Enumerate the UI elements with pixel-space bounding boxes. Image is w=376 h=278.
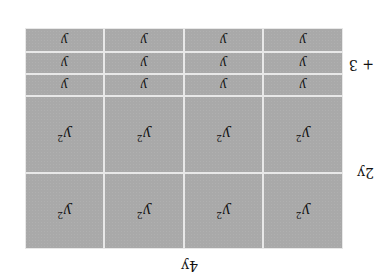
height-label-2y: 2y [357,165,374,181]
y-squared-tile: y2 [26,174,103,248]
tile-exponent: 2 [137,134,143,144]
y-tile: y [185,75,262,95]
y-squared-tile: y2 [26,97,103,172]
tile-exponent: 2 [296,210,302,220]
y-tile: y [264,29,342,51]
y-tile: y [26,75,103,95]
tile-exponent: 2 [216,210,222,220]
width-label: 4y [181,258,198,274]
tile-label: y [223,127,231,143]
tile-exponent: 2 [57,210,63,220]
tile-label: y [220,56,227,70]
tile-exponent: 2 [216,134,222,144]
tile-label: y [143,127,151,143]
y-tile: y [105,53,183,73]
tile-exponent: 2 [137,210,143,220]
tile-label: y [302,127,310,143]
tile-label: y [61,56,68,70]
diagram-stage: y2y2y2y2y2y2y2y2yyyyyyyyyyyy 4y 2y + 3 [0,0,376,278]
tile-label: y [61,33,68,47]
y-squared-tile: y2 [185,174,262,248]
y-tile: y [185,29,262,51]
y-squared-tile: y2 [264,97,342,172]
tile-label: y [302,203,310,219]
tile-label: y [143,203,151,219]
tile-label: y [61,78,68,92]
y-tile: y [264,53,342,73]
tile-exponent: 2 [296,134,302,144]
tile-label: y [64,127,72,143]
tile-exponent: 2 [57,134,63,144]
y-squared-tile: y2 [105,97,183,172]
tile-label: y [141,78,148,92]
tile-label: y [300,33,307,47]
tile-label: y [220,78,227,92]
tile-label: y [300,56,307,70]
y-tile: y [26,53,103,73]
tile-label: y [300,78,307,92]
y-tile: y [26,29,103,51]
y-tile: y [185,53,262,73]
tile-label: y [141,56,148,70]
y-tile: y [105,75,183,95]
y-squared-tile: y2 [105,174,183,248]
tile-label: y [64,203,72,219]
y-squared-tile: y2 [264,174,342,248]
y-tile: y [105,29,183,51]
y-tile: y [264,75,342,95]
tile-label: y [141,33,148,47]
tile-label: y [220,33,227,47]
tile-label: y [223,203,231,219]
height-label-plus-3: + 3 [349,57,374,73]
y-squared-tile: y2 [185,97,262,172]
